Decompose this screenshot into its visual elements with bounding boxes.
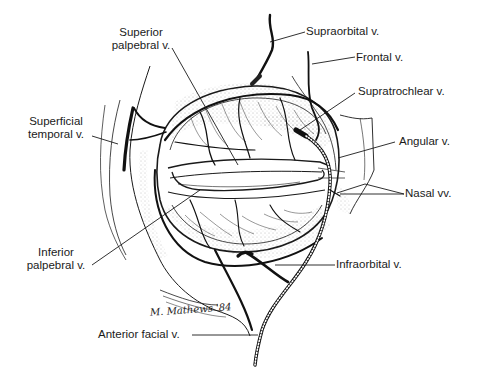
label-angular: Angular v. — [399, 135, 450, 148]
leader-lines — [92, 32, 404, 335]
label-supratrochlear: Supratrochlear v. — [358, 85, 445, 98]
label-line: Superficial — [20, 115, 92, 128]
label-inferior-palpebral: Inferior palpebral v. — [20, 246, 92, 272]
leader-supraorbital — [270, 32, 305, 42]
label-nasal: Nasal vv. — [405, 187, 451, 200]
label-anterior-facial: Anterior facial v. — [98, 328, 180, 341]
eyelid-margins — [168, 159, 345, 198]
label-line: Inferior — [20, 246, 92, 259]
leader-nasal — [337, 184, 404, 194]
label-infraorbital: Infraorbital v. — [336, 258, 402, 271]
label-line: palpebral v. — [96, 39, 186, 52]
label-superficial-temporal: Superficial temporal v. — [20, 115, 92, 141]
label-frontal: Frontal v. — [356, 51, 403, 64]
leader-angular — [338, 142, 395, 158]
label-supraorbital: Supraorbital v. — [306, 25, 379, 38]
leader-frontal — [312, 57, 355, 64]
label-line: Superior — [96, 26, 186, 39]
label-line: temporal v. — [20, 128, 92, 141]
label-line: palpebral v. — [20, 259, 92, 272]
leader-superficial-temporal — [92, 136, 118, 144]
label-superior-palpebral: Superior palpebral v. — [96, 26, 186, 52]
